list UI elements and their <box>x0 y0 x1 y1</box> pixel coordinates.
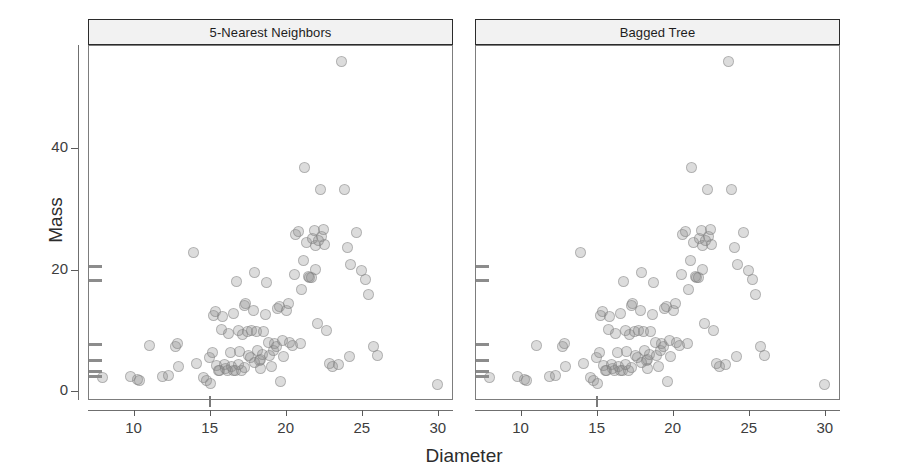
data-point <box>531 340 542 351</box>
x-axis-tick-label: 15 <box>577 419 617 436</box>
data-point <box>560 361 571 372</box>
data-point <box>819 379 830 390</box>
y-axis-line <box>78 45 79 400</box>
data-point <box>248 305 259 316</box>
data-point <box>592 378 603 389</box>
data-point <box>172 338 183 349</box>
x-axis-tick <box>521 410 522 416</box>
x-axis-tick-label: 25 <box>729 419 769 436</box>
data-point <box>731 351 742 362</box>
data-point <box>618 276 629 287</box>
y-axis-tick-label: 20 <box>28 260 68 277</box>
data-point <box>231 276 242 287</box>
data-point <box>521 375 532 386</box>
x-axis-tick <box>210 410 211 416</box>
data-point <box>144 340 155 351</box>
data-point <box>275 376 286 387</box>
data-point <box>315 184 326 195</box>
data-point <box>336 56 347 67</box>
y-axis-rug-mark <box>89 265 102 268</box>
data-point <box>604 311 615 322</box>
data-point <box>289 269 300 280</box>
panel-strip-label: Bagged Tree <box>620 25 696 40</box>
data-point <box>258 326 269 337</box>
y-axis-tick <box>71 270 78 271</box>
y-axis-tick-label: 40 <box>28 138 68 155</box>
data-point <box>191 358 202 369</box>
data-point <box>750 289 761 300</box>
x-axis-tick <box>673 410 674 416</box>
x-axis-tick-label: 30 <box>418 419 458 436</box>
y-axis-rug-mark <box>476 375 489 378</box>
data-point <box>261 277 272 288</box>
y-axis-rug-mark <box>89 375 102 378</box>
data-point <box>278 351 289 362</box>
x-axis-rug-mark <box>209 396 211 407</box>
data-point <box>647 309 658 320</box>
data-point <box>720 359 731 370</box>
data-point <box>351 227 362 238</box>
data-point <box>339 184 350 195</box>
data-point <box>188 247 199 258</box>
data-point <box>207 347 218 358</box>
x-axis-tick <box>134 410 135 416</box>
y-axis-rug-mark <box>476 359 489 362</box>
x-axis-line <box>475 410 840 411</box>
data-point <box>233 359 244 370</box>
data-point <box>702 184 713 195</box>
panel-strip-label: 5-Nearest Neighbors <box>210 25 332 40</box>
x-axis-tick-label: 20 <box>653 419 693 436</box>
trellis-scatter-figure: Mass Diameter 5-Nearest Neighbors Bagged… <box>0 0 919 470</box>
data-point <box>708 325 719 336</box>
data-point <box>163 370 174 381</box>
y-axis-rug-mark <box>476 265 489 268</box>
data-point <box>318 224 329 235</box>
x-axis-tick-label: 20 <box>266 419 306 436</box>
x-axis-tick <box>597 410 598 416</box>
data-point <box>559 338 570 349</box>
data-point <box>299 162 310 173</box>
data-point <box>173 361 184 372</box>
plot-panel-knn <box>88 45 453 400</box>
data-point <box>217 311 228 322</box>
data-point <box>342 242 353 253</box>
x-axis-tick <box>286 410 287 416</box>
data-point <box>333 359 344 370</box>
y-axis-rug-mark <box>476 343 489 346</box>
y-axis-rug-mark <box>89 359 102 362</box>
data-point <box>700 235 711 246</box>
panel-strip-bagged-tree: Bagged Tree <box>475 19 840 45</box>
x-axis-tick-label: 15 <box>190 419 230 436</box>
data-point <box>321 325 332 336</box>
x-axis-tick-label: 25 <box>342 419 382 436</box>
data-point <box>665 351 676 362</box>
data-point <box>636 267 647 278</box>
data-point <box>134 375 145 386</box>
data-point <box>615 308 626 319</box>
data-point <box>313 235 324 246</box>
data-point <box>732 259 743 270</box>
x-axis-rug-mark <box>596 396 598 407</box>
data-point <box>228 308 239 319</box>
x-axis-tick <box>362 410 363 416</box>
x-axis-title: Diameter <box>88 445 840 467</box>
data-point <box>293 226 304 237</box>
data-point <box>738 227 749 238</box>
data-point <box>266 361 277 372</box>
data-point <box>578 358 589 369</box>
data-point <box>685 255 696 266</box>
data-point <box>295 338 306 349</box>
data-point <box>759 350 770 361</box>
data-point <box>283 298 294 309</box>
data-point <box>344 351 355 362</box>
x-axis-tick <box>438 410 439 416</box>
y-axis-rug-mark <box>476 279 489 282</box>
data-point <box>298 255 309 266</box>
x-axis-tick <box>825 410 826 416</box>
data-point <box>697 264 708 275</box>
data-point <box>372 350 383 361</box>
data-point <box>670 298 681 309</box>
y-axis-tick <box>71 391 78 392</box>
x-axis-tick <box>749 410 750 416</box>
data-point <box>686 162 697 173</box>
